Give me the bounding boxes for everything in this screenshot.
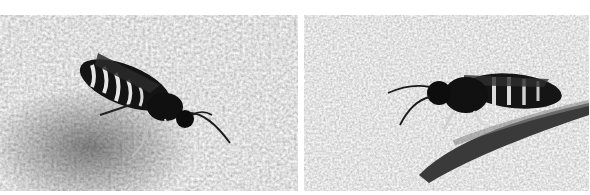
wasp-photo-right [304, 15, 589, 191]
wasp-photo-left [0, 15, 298, 191]
photo-panel-right [304, 15, 589, 191]
photo-panel-left [0, 15, 298, 191]
